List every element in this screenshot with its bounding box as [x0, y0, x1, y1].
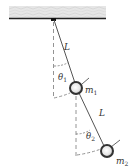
angle-arc-1b: [54, 93, 70, 98]
double-pendulum-diagram: L L θ1 θ2 m1 m2: [0, 0, 139, 167]
ceiling: [9, 6, 106, 18]
mass-1-label: m1: [85, 85, 97, 96]
rod-2-length-label: L: [98, 108, 105, 118]
rod-1-length-label: L: [63, 42, 70, 52]
angle-2-label: θ2: [86, 131, 95, 142]
mass-2-label: m2: [116, 156, 129, 167]
angle-arc-1: [54, 62, 69, 66]
rod-1-extension: [82, 78, 89, 84]
mass-1: [70, 82, 82, 94]
angle-1-label: θ1: [58, 72, 67, 83]
mass-2: [101, 145, 113, 157]
angle-arc-2b: [77, 149, 101, 155]
pivot: [51, 18, 56, 21]
rod-2-extension: [111, 140, 120, 147]
